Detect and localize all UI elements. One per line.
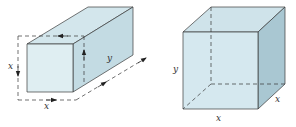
length-mid-arrow [98, 82, 106, 87]
cube-front-face [183, 32, 258, 109]
box-front-face [27, 44, 73, 92]
length-end-arrow [138, 58, 146, 63]
diagram-canvas: x x y y x x [0, 0, 296, 127]
label-base-front-x: x [216, 113, 221, 123]
square-base-box-figure: y x x [172, 7, 285, 123]
label-height-y: y [172, 64, 179, 74]
label-length-y: y [106, 53, 113, 63]
label-front-height-x: x [8, 61, 13, 71]
label-base-depth-x: x [275, 94, 280, 104]
elongated-box-figure: x x y [8, 7, 146, 111]
label-front-width-x: x [44, 101, 49, 111]
